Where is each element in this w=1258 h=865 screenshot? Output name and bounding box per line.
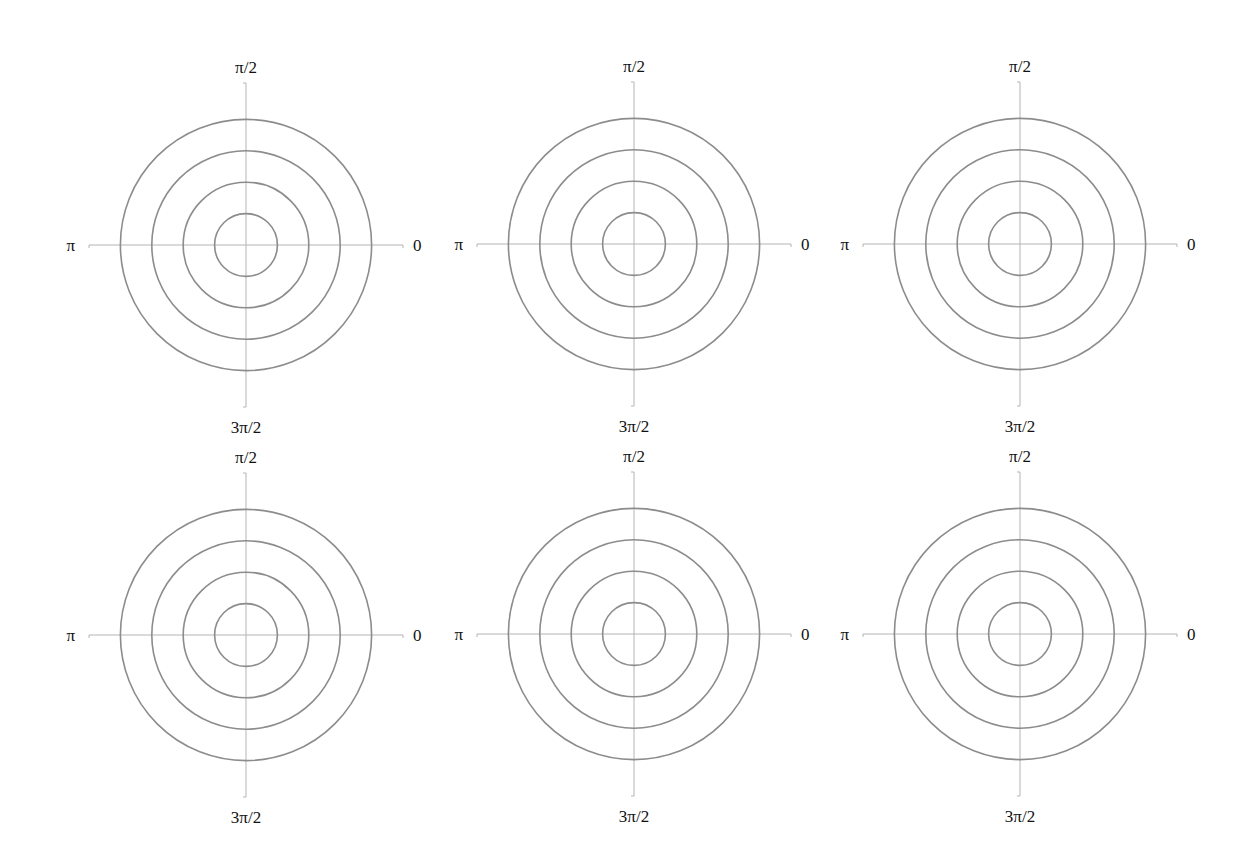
angle-label-pi-over-2: π/2 [1009, 57, 1031, 76]
angle-label-pi: π [840, 625, 849, 644]
polar-panel-2-3: π/23π/2π0 [840, 447, 1195, 826]
angle-label-zero: 0 [801, 625, 810, 644]
angle-label-pi-over-2: π/2 [1009, 447, 1031, 466]
angle-label-pi-over-2: π/2 [623, 447, 645, 466]
angle-label-pi-over-2: π/2 [235, 448, 257, 467]
polar-grid-figure: π/23π/2π0π/23π/2π0π/23π/2π0π/23π/2π0π/23… [0, 0, 1258, 865]
angle-label-pi: π [454, 235, 463, 254]
angle-label-zero: 0 [1187, 235, 1196, 254]
angle-label-zero: 0 [413, 236, 422, 255]
angle-label-pi-over-2: π/2 [623, 57, 645, 76]
polar-panel-1-1: π/23π/2π0 [66, 58, 421, 437]
angle-label-zero: 0 [1187, 625, 1196, 644]
polar-panel-2-1: π/23π/2π0 [66, 448, 421, 827]
angle-label-pi: π [840, 235, 849, 254]
polar-panel-2-2: π/23π/2π0 [454, 447, 809, 826]
angle-label-pi: π [454, 625, 463, 644]
polar-panel-1-3: π/23π/2π0 [840, 57, 1195, 436]
angle-label-3pi-over-2: 3π/2 [1005, 417, 1035, 436]
angle-label-3pi-over-2: 3π/2 [1005, 807, 1035, 826]
angle-label-3pi-over-2: 3π/2 [619, 807, 649, 826]
angle-label-pi-over-2: π/2 [235, 58, 257, 77]
angle-label-zero: 0 [413, 626, 422, 645]
angle-label-pi: π [66, 236, 75, 255]
angle-label-3pi-over-2: 3π/2 [619, 417, 649, 436]
angle-label-3pi-over-2: 3π/2 [231, 418, 261, 437]
angle-label-zero: 0 [801, 235, 810, 254]
angle-label-3pi-over-2: 3π/2 [231, 808, 261, 827]
angle-label-pi: π [66, 626, 75, 645]
polar-panel-1-2: π/23π/2π0 [454, 57, 809, 436]
